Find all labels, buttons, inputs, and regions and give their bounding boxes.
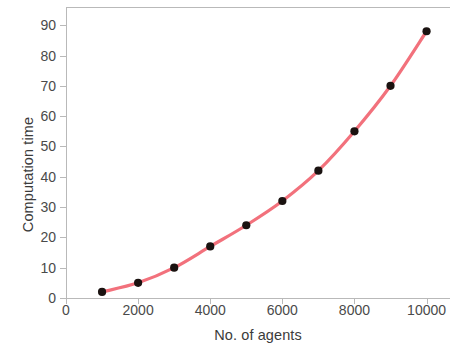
data-line <box>102 31 427 292</box>
data-point-marker <box>422 27 430 35</box>
data-point-marker <box>350 127 358 135</box>
y-axis-title: Computation time <box>26 0 52 349</box>
data-point-marker <box>206 242 214 250</box>
data-point-marker <box>314 167 322 175</box>
line-chart: 0102030405060708090020004000600080001000… <box>0 0 456 349</box>
data-series-layer <box>0 0 456 349</box>
x-axis-title: No. of agents <box>66 327 450 343</box>
data-point-marker <box>170 264 178 272</box>
data-point-marker <box>134 279 142 287</box>
data-point-marker <box>386 82 394 90</box>
data-point-marker <box>242 221 250 229</box>
data-point-marker <box>98 288 106 296</box>
data-point-marker <box>278 197 286 205</box>
